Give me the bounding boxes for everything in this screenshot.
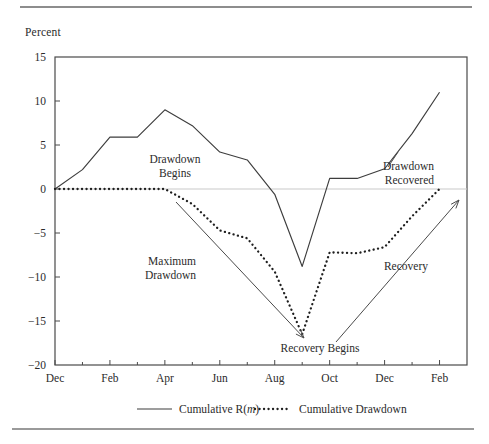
y-tick-label: 15 xyxy=(35,51,47,63)
x-tick-label: Dec xyxy=(375,372,394,384)
y-tick-label: −10 xyxy=(28,271,46,283)
chart-legend: Cumulative R(m) Cumulative Drawdown xyxy=(137,403,407,416)
plot-frame xyxy=(55,57,467,365)
x-tick-label: Aug xyxy=(265,372,285,385)
chart-svg: 151050−5−10−15−20 DecFebAprJunAugOctDecF… xyxy=(0,0,489,444)
series-cumulative-return-line xyxy=(55,92,440,266)
x-tick-label: Apr xyxy=(156,372,174,385)
x-axis-ticks: DecFebAprJunAugOctDecFeb xyxy=(46,360,449,385)
legend-label-cumulative-return: Cumulative R(m) xyxy=(179,403,259,416)
x-tick-label: Oct xyxy=(321,372,338,384)
figure-container: Percent 151050−5−10−15−20 DecFebAprJunAu… xyxy=(0,0,489,444)
annotation-label-maximum-drawdown: MaximumDrawdown xyxy=(145,255,196,281)
chart-annotations: DrawdownBeginsMaximumDrawdownRecovery Be… xyxy=(145,152,459,355)
y-tick-label: 10 xyxy=(35,95,47,107)
y-tick-label: −5 xyxy=(34,227,46,239)
x-tick-label: Jun xyxy=(212,372,228,384)
x-tick-label: Feb xyxy=(101,372,119,384)
annotation-label-drawdown-begins: DrawdownBegins xyxy=(149,153,200,180)
y-tick-label: −15 xyxy=(28,315,46,327)
x-tick-label: Dec xyxy=(46,372,65,384)
x-tick-label: Feb xyxy=(431,372,449,384)
annotation-label-recovery-begins: Recovery Begins xyxy=(281,342,360,355)
y-tick-label: 5 xyxy=(40,139,46,151)
annotation-label-recovery: Recovery xyxy=(384,260,428,273)
legend-label-cumulative-drawdown: Cumulative Drawdown xyxy=(299,403,407,415)
y-tick-label: −20 xyxy=(28,359,46,371)
y-tick-label: 0 xyxy=(40,183,46,195)
series-cumulative-drawdown-line xyxy=(55,189,440,334)
